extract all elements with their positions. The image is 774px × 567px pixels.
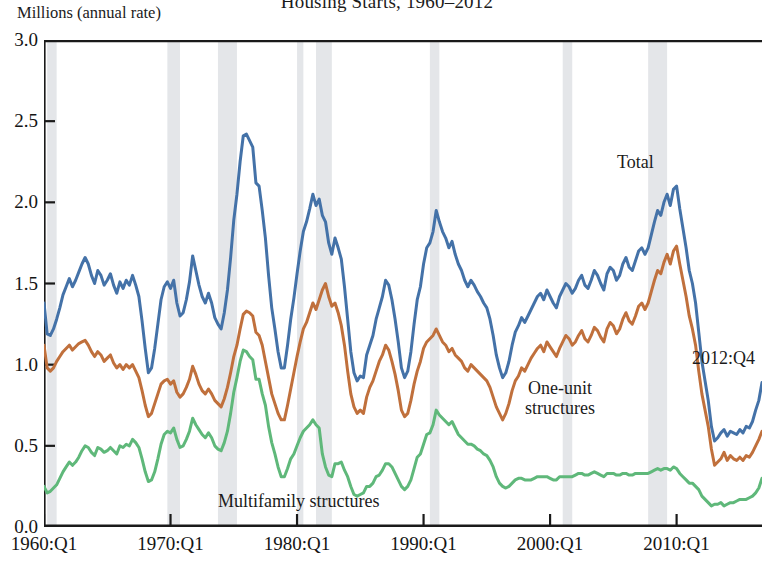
series-label-multifamily: Multifamily structures <box>218 491 379 511</box>
x-tick-marks <box>44 514 677 526</box>
y-tick-label: 3.0 <box>14 30 38 49</box>
recession-band <box>297 41 303 526</box>
series-label-one-unit-line1: One-unit <box>493 378 627 398</box>
series-label-one-unit: One-unit structures <box>493 378 627 418</box>
y-tick-label: 0.5 <box>14 436 38 455</box>
y-tick-label: 2.5 <box>14 111 38 130</box>
x-tick-label: 2000:Q1 <box>517 534 584 553</box>
x-tick-label: 1960:Q1 <box>11 534 78 553</box>
recession-band <box>648 41 667 526</box>
y-tick-label: 1.5 <box>14 274 38 293</box>
x-tick-label: 2010:Q1 <box>643 534 710 553</box>
y-tick-label: 2.0 <box>14 192 38 211</box>
series-label-one-unit-line2: structures <box>493 398 627 418</box>
y-axis-tick-labels: 0.00.51.01.52.02.53.0 <box>0 0 38 567</box>
series-label-total: Total <box>617 152 654 172</box>
recession-band <box>430 41 439 526</box>
chart-figure: Housing Starts, 1960–2012 Millions (annu… <box>0 0 774 567</box>
y-tick-label: 1.0 <box>14 355 38 374</box>
x-tick-label: 1980:Q1 <box>264 534 331 553</box>
plot-area <box>44 40 762 527</box>
plot-svg <box>44 40 762 527</box>
endpoint-label: 2012:Q4 <box>692 348 755 368</box>
x-tick-label: 1970:Q1 <box>137 534 204 553</box>
y-axis-title: Millions (annual rate) <box>17 3 161 23</box>
x-tick-label: 1990:Q1 <box>390 534 457 553</box>
